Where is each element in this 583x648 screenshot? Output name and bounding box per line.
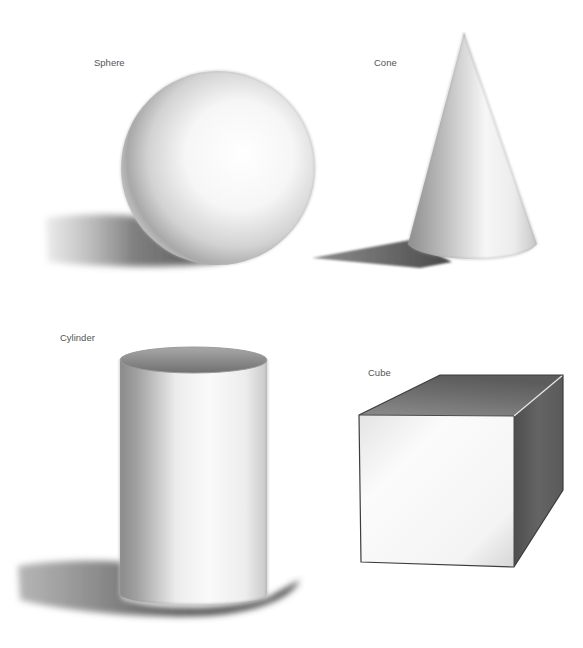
label-cylinder: Cylinder: [60, 332, 95, 343]
cylinder-body: [120, 360, 267, 605]
drawing-canvas: [0, 0, 583, 648]
sphere-drawing: [46, 71, 315, 267]
cube-front-face: [359, 415, 514, 567]
cone-drawing: [312, 33, 537, 268]
cone-body: [408, 33, 537, 259]
label-cube: Cube: [368, 367, 391, 378]
sphere-body: [121, 71, 315, 265]
cylinder-drawing: [18, 347, 300, 616]
label-cone: Cone: [374, 57, 397, 68]
label-sphere: Sphere: [94, 57, 125, 68]
cube-drawing: [359, 375, 563, 567]
